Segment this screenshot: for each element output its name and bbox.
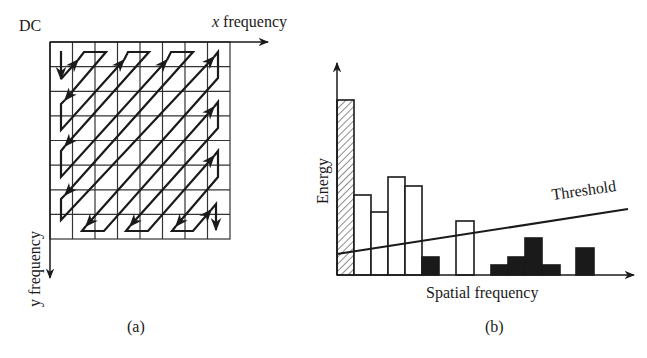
x-frequency-word: frequency [219,13,287,30]
spatial-frequency-label: Spatial frequency [426,284,538,302]
caption-b: (b) [485,318,504,336]
energy-axis-label: Energy [314,146,332,216]
bar-4 [405,186,422,275]
bar-7 [456,221,474,275]
bar-dc-hatched [337,100,354,275]
bar-1 [354,195,371,275]
bar-5-below-threshold [422,257,439,275]
bar-11-below-threshold [525,238,542,275]
y-frequency-label: y frequency [26,219,44,319]
x-frequency-label: x frequency [212,13,287,31]
dc-label: DC [19,17,41,35]
bar-2 [371,212,388,275]
caption-a: (a) [127,318,145,336]
bar-10-below-threshold [508,257,525,275]
bar-12-below-threshold [542,265,560,275]
dct-coefficient-grid [50,42,230,239]
bar-3 [388,177,405,275]
bar-9-below-threshold [491,265,508,275]
bar-14-below-threshold [576,248,594,275]
